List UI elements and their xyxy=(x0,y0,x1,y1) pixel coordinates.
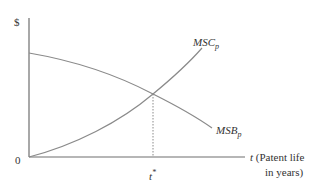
chart: $ 0 MSCp MSBp t (Patent life in years) t… xyxy=(0,0,313,189)
y-axis-label: $ xyxy=(14,16,20,28)
x-axis-label-text: (Patent life xyxy=(256,151,305,164)
equilibrium-label-sup: * xyxy=(152,168,156,177)
msc-curve xyxy=(29,48,202,157)
msc-label-base: MSC xyxy=(192,36,216,48)
msb-curve xyxy=(29,53,212,128)
msb-label-base: MSB xyxy=(215,124,238,136)
msc-label: MSCp xyxy=(192,36,219,51)
msb-label-sub: p xyxy=(236,130,241,139)
x-axis-label-line1: t (Patent life xyxy=(250,151,304,164)
msb-label: MSBp xyxy=(215,124,241,139)
msc-label-sub: p xyxy=(214,42,219,51)
equilibrium-label: t* xyxy=(149,168,156,182)
origin-label: 0 xyxy=(15,154,21,166)
x-axis-label-line2: in years) xyxy=(265,166,304,179)
